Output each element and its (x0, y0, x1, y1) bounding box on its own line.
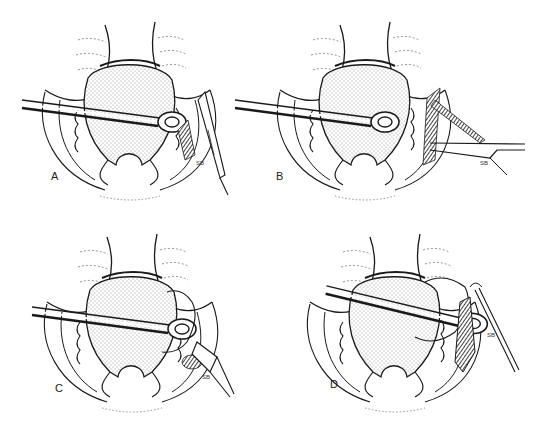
surgical-illustration-d (265, 212, 546, 425)
instrument-label: SB (480, 160, 488, 166)
surgical-illustration-c (2, 212, 275, 425)
panel-a: A SB (0, 0, 273, 212)
scalpel-icon (198, 92, 228, 195)
surgical-illustration-a (0, 0, 273, 212)
scissors-icon (430, 100, 525, 175)
panel-c: C SB (0, 212, 273, 425)
instrument-label: SB (196, 160, 204, 166)
instrument-label: SB (202, 374, 210, 380)
retractor-icon (192, 342, 234, 397)
panel-label: D (330, 378, 338, 390)
panel-b: B SB (240, 0, 546, 212)
panel-label: B (276, 170, 283, 182)
panel-label: A (51, 170, 58, 182)
instrument-label: SB (487, 332, 495, 338)
panel-d: D SB (260, 212, 546, 425)
panel-label: C (55, 382, 63, 394)
